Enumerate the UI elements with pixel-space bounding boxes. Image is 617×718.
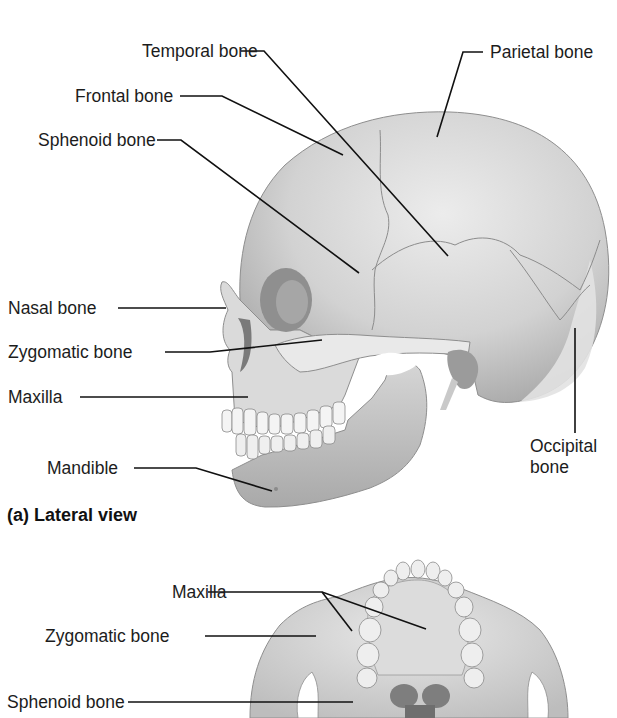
label-inferior-zygomatic-bone: Zygomatic bone <box>45 626 170 646</box>
left-choana <box>390 684 418 708</box>
label-mandible: Mandible <box>47 458 118 478</box>
right-choana <box>422 684 450 708</box>
label-sphenoid-bone: Sphenoid bone <box>38 130 156 150</box>
label-occipital-bone: Occipital bone <box>530 436 617 478</box>
label-inferior-maxilla: Maxilla <box>172 582 226 602</box>
label-inferior-sphenoid-bone: Sphenoid bone <box>7 692 125 712</box>
label-parietal-bone: Parietal bone <box>490 42 593 62</box>
label-nasal-bone: Nasal bone <box>8 298 97 318</box>
label-maxilla: Maxilla <box>8 387 62 407</box>
label-zygomatic-bone: Zygomatic bone <box>8 342 133 362</box>
caption-lateral-view: (a) Lateral view <box>7 505 137 526</box>
label-frontal-bone: Frontal bone <box>75 86 173 106</box>
mental-foramen <box>274 487 278 491</box>
styloid-process <box>440 378 458 410</box>
inferior-skull <box>250 560 568 718</box>
label-temporal-bone: Temporal bone <box>142 41 258 61</box>
zygomatic-arch <box>275 334 470 372</box>
